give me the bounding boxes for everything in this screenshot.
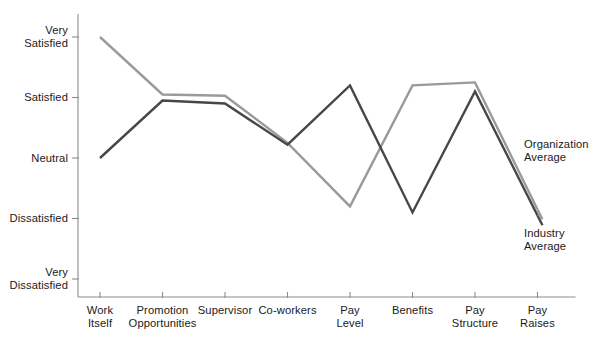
x-tick-label-7: Pay Raises: [478, 304, 598, 330]
series-line-0: [100, 37, 538, 209]
y-tick-label-3: Dissatisfied: [10, 212, 68, 225]
y-tick-label-1: Satisfied: [24, 91, 68, 104]
y-tick-label-0: Very Satisfied: [24, 24, 68, 49]
series-label-0: Organization Average: [524, 138, 589, 164]
series-label-1: Industry Average: [524, 227, 566, 253]
y-tick-label-2: Neutral: [31, 152, 68, 165]
satisfaction-line-chart: Very SatisfiedSatisfiedNeutralDissatisfi…: [0, 0, 614, 355]
y-tick-label-4: Very Dissatisfied: [10, 266, 68, 291]
chart-series-lines: [100, 37, 542, 225]
series-line-1: [100, 85, 538, 215]
chart-plot-area: [0, 0, 614, 355]
chart-axes: [72, 14, 576, 298]
